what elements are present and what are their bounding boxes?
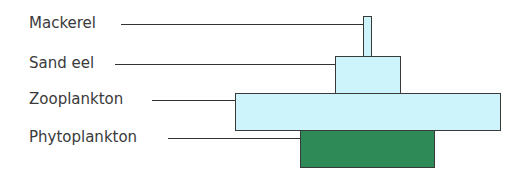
bar-mackerel bbox=[363, 16, 372, 57]
label-zooplankton: Zooplankton bbox=[29, 90, 123, 108]
leader-line-phytoplankton bbox=[168, 138, 300, 139]
leader-line-mackerel bbox=[121, 24, 363, 25]
bar-zooplankton bbox=[235, 93, 501, 131]
bar-phytoplankton bbox=[300, 130, 435, 168]
leader-line-zooplankton bbox=[152, 100, 235, 101]
bar-sand-eel bbox=[335, 56, 401, 94]
label-phytoplankton: Phytoplankton bbox=[29, 128, 137, 146]
leader-line-sand-eel bbox=[115, 64, 335, 65]
label-mackerel: Mackerel bbox=[29, 14, 96, 32]
label-sand-eel: Sand eel bbox=[29, 54, 94, 72]
